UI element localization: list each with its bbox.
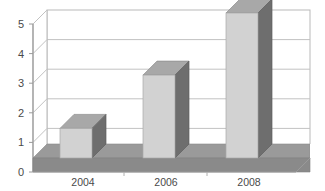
y-tick-label-2: 2 (18, 107, 24, 119)
floor-front-face (33, 158, 310, 172)
x-category-label-2004: 2004 (71, 176, 95, 188)
y-tick-label-0: 0 (18, 166, 24, 178)
x-category-label-2006: 2006 (154, 176, 178, 188)
bar-2008-side-face (258, 0, 272, 158)
y-tick-label-4: 4 (18, 48, 24, 60)
bar-2006-front-face (143, 75, 175, 158)
y-tick-label-1: 1 (18, 136, 24, 148)
floor-right-gap (310, 144, 324, 158)
bar-2006-side-face (175, 61, 189, 158)
chart-canvas: 5 4 3 2 1 0 2004 2006 2008 (0, 0, 325, 191)
bar-2008[interactable] (226, 0, 272, 158)
x-category-label-2008: 2008 (237, 176, 261, 188)
bar-2008-front-face (226, 13, 258, 158)
y-axis-tick-labels: 5 4 3 2 1 0 (18, 18, 24, 178)
bar-2004-front-face (60, 128, 92, 158)
y-tick-label-3: 3 (18, 77, 24, 89)
y-tick-label-5: 5 (18, 18, 24, 30)
x-axis-category-labels: 2004 2006 2008 (71, 176, 261, 188)
bar-chart-3d: 5 4 3 2 1 0 2004 2006 2008 (0, 0, 325, 191)
bar-2006[interactable] (143, 61, 189, 158)
